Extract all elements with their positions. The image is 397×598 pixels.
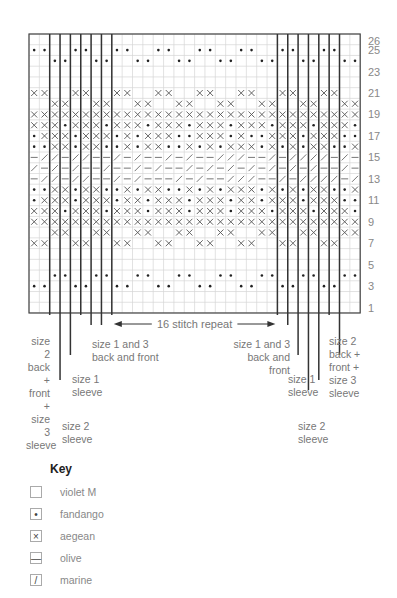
key-item: /marine bbox=[30, 572, 92, 588]
fandango-stitch bbox=[271, 210, 274, 213]
fandango-stitch bbox=[281, 188, 284, 191]
fandango-stitch bbox=[323, 285, 326, 288]
row-number: 11 bbox=[368, 194, 379, 206]
fandango-stitch bbox=[43, 188, 46, 191]
fandango-stitch bbox=[116, 49, 119, 52]
fandango-stitch bbox=[136, 145, 139, 148]
aegean-stitch bbox=[73, 90, 79, 96]
aegean-stitch bbox=[290, 240, 296, 246]
aegean-stitch bbox=[166, 133, 172, 139]
label-line: sleeve bbox=[72, 386, 102, 399]
fandango-stitch bbox=[261, 188, 264, 191]
fandango-stitch bbox=[105, 210, 108, 213]
aegean-stitch bbox=[238, 133, 244, 139]
marine-swatch-icon: / bbox=[30, 574, 42, 586]
marine-stitch bbox=[238, 176, 244, 182]
fandango-stitch bbox=[167, 49, 170, 52]
key-label: olive bbox=[60, 552, 82, 564]
row-number: 13 bbox=[368, 173, 380, 185]
aegean-stitch bbox=[300, 219, 306, 225]
fandango-stitch bbox=[33, 49, 36, 52]
aegean-stitch bbox=[155, 144, 161, 150]
aegean-stitch bbox=[62, 133, 68, 139]
fandango-stitch bbox=[178, 188, 181, 191]
aegean-stitch bbox=[176, 101, 182, 107]
aegean-stitch bbox=[217, 197, 223, 203]
aegean-stitch bbox=[145, 133, 151, 139]
aegean-stitch bbox=[217, 122, 223, 128]
fandango-stitch bbox=[302, 135, 305, 138]
fandango-stitch bbox=[188, 135, 191, 138]
aegean-stitch bbox=[52, 111, 58, 117]
aegean-stitch bbox=[83, 144, 89, 150]
fandango-stitch bbox=[95, 274, 98, 277]
fandango-stitch bbox=[105, 60, 108, 63]
fandango-stitch bbox=[178, 274, 181, 277]
aegean-stitch bbox=[249, 144, 255, 150]
label-line: back and front bbox=[230, 351, 290, 377]
label-line: size 1 bbox=[288, 373, 318, 386]
aegean-stitch bbox=[238, 144, 244, 150]
aegean-stitch bbox=[280, 208, 286, 214]
marine-stitch bbox=[331, 176, 337, 182]
fandango-stitch bbox=[312, 124, 315, 127]
label-line: size 2 bbox=[26, 335, 50, 361]
aegean-stitch bbox=[135, 219, 141, 225]
fandango-stitch bbox=[240, 285, 243, 288]
aegean-stitch bbox=[166, 208, 172, 214]
fandango-stitch bbox=[74, 285, 77, 288]
label-right-size1-3: size 1 and 3 back and front bbox=[230, 338, 290, 377]
fandango-stitch bbox=[178, 135, 181, 138]
aegean-stitch bbox=[249, 197, 255, 203]
fandango-stitch bbox=[302, 274, 305, 277]
aegean-stitch bbox=[207, 122, 213, 128]
aegean-stitch bbox=[73, 208, 79, 214]
fandango-stitch bbox=[85, 49, 88, 52]
fandango-stitch bbox=[302, 60, 305, 63]
fandango-stitch bbox=[178, 60, 181, 63]
aegean-stitch bbox=[93, 230, 99, 236]
aegean-stitch bbox=[93, 122, 99, 128]
marine-stitch bbox=[321, 176, 327, 182]
aegean-stitch bbox=[155, 90, 161, 96]
aegean-stitch bbox=[269, 219, 275, 225]
aegean-stitch bbox=[104, 111, 110, 117]
aegean-stitch bbox=[155, 208, 161, 214]
aegean-stitch bbox=[186, 144, 192, 150]
aegean-stitch bbox=[166, 111, 172, 117]
fandango-stitch bbox=[250, 285, 253, 288]
key-item: •fandango bbox=[30, 506, 104, 522]
marine-stitch bbox=[104, 165, 110, 171]
aegean-stitch bbox=[217, 101, 223, 107]
fandango-stitch bbox=[167, 188, 170, 191]
aegean-stitch bbox=[197, 111, 203, 117]
label-line: back and front bbox=[92, 351, 159, 364]
aegean-stitch bbox=[197, 90, 203, 96]
aegean-stitch bbox=[52, 144, 58, 150]
aegean-stitch bbox=[238, 219, 244, 225]
aegean-stitch bbox=[311, 187, 317, 193]
marine-stitch bbox=[155, 165, 161, 171]
aegean-stitch bbox=[217, 111, 223, 117]
marine-stitch bbox=[269, 165, 275, 171]
aegean-stitch bbox=[83, 187, 89, 193]
aegean-stitch bbox=[114, 219, 120, 225]
aegean-stitch bbox=[124, 144, 130, 150]
marine-stitch bbox=[321, 154, 327, 160]
fandango-stitch bbox=[354, 274, 357, 277]
aegean-stitch bbox=[104, 197, 110, 203]
fandango-stitch bbox=[354, 60, 357, 63]
fandango-stitch bbox=[261, 60, 264, 63]
aegean-stitch bbox=[228, 219, 234, 225]
aegean-stitch bbox=[207, 240, 213, 246]
aegean-stitch bbox=[42, 90, 48, 96]
aegean-stitch bbox=[197, 208, 203, 214]
marine-stitch bbox=[352, 176, 358, 182]
aegean-stitch bbox=[166, 122, 172, 128]
aegean-stitch bbox=[269, 111, 275, 117]
row-number: 19 bbox=[368, 108, 380, 120]
violet-m-swatch-icon bbox=[30, 486, 42, 498]
fandango-stitch bbox=[219, 145, 222, 148]
aegean-stitch bbox=[93, 187, 99, 193]
aegean-stitch bbox=[259, 122, 265, 128]
